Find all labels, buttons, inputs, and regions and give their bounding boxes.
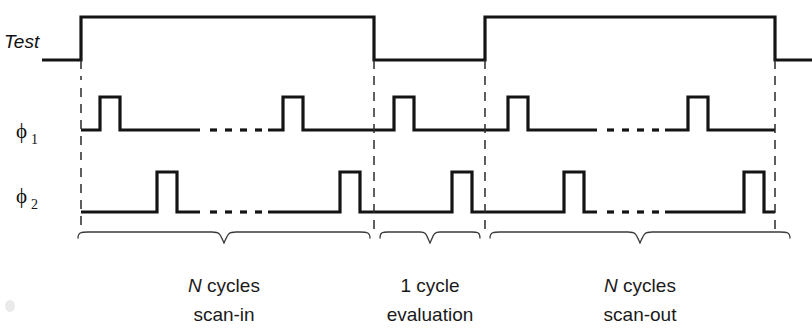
brace-scan-out bbox=[490, 232, 790, 243]
phi2-signal-subscript: 2 bbox=[31, 197, 38, 212]
phase-evaluation-line1: 1 cycle bbox=[400, 275, 459, 296]
phi2-waveform-seg3 bbox=[665, 172, 775, 212]
brace-evaluation bbox=[380, 232, 480, 243]
phase-scan-out-line1: N cycles bbox=[604, 275, 676, 296]
phase-evaluation-line2: evaluation bbox=[387, 304, 474, 325]
phi2-ellipsis-right bbox=[607, 210, 659, 213]
phase-scan-in-line1: N cycles bbox=[188, 275, 260, 296]
phase-scan-out-line2: scan-out bbox=[604, 304, 678, 325]
phase-scan-in-n-italic: N bbox=[188, 275, 202, 296]
scan-artifact-smudge bbox=[5, 300, 15, 312]
test-waveform bbox=[42, 17, 812, 60]
phi1-ellipsis-right bbox=[607, 128, 659, 131]
phase-scan-out-cycles-text: cycles bbox=[618, 275, 676, 296]
test-signal-label: Test bbox=[4, 31, 40, 52]
phi1-signal-subscript: 1 bbox=[31, 132, 38, 147]
phi1-signal-label: ϕ bbox=[16, 119, 27, 143]
timing-diagram-svg: Test ϕ 1 ϕ 2 bbox=[0, 0, 812, 331]
phase-scan-in-line2: scan-in bbox=[193, 304, 254, 325]
phi1-waveform-seg3 bbox=[665, 97, 775, 130]
phase-scan-in-cycles-text: cycles bbox=[202, 275, 260, 296]
phi1-waveform-seg1 bbox=[81, 97, 200, 130]
phi2-waveform-seg1 bbox=[81, 172, 200, 212]
timing-diagram-figure: Test ϕ 1 ϕ 2 bbox=[0, 0, 812, 331]
phi1-ellipsis-left bbox=[210, 128, 262, 131]
phi2-ellipsis-left bbox=[210, 210, 262, 213]
brace-scan-in bbox=[78, 232, 370, 243]
phi2-waveform-seg2 bbox=[268, 172, 597, 212]
phase-scan-out-n-italic: N bbox=[604, 275, 618, 296]
phi1-waveform-seg2 bbox=[268, 97, 597, 130]
phi2-signal-label: ϕ bbox=[16, 184, 27, 208]
